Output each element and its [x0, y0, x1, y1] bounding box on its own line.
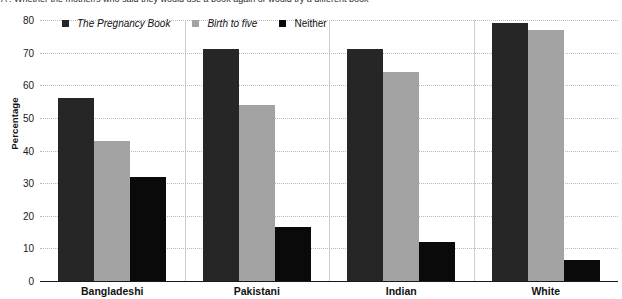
bar-group: [185, 20, 330, 281]
legend-label: The Pregnancy Book: [77, 18, 170, 29]
bar: [130, 177, 166, 281]
legend-swatch-icon: [279, 20, 286, 27]
y-axis-tick-label: 80: [4, 15, 34, 26]
bar: [203, 49, 239, 281]
bar: [58, 98, 94, 281]
bar-group: [474, 20, 619, 281]
chart-title-clipped: A : Whether the mother/s who said they w…: [0, 0, 622, 5]
y-axis-tick-label: 70: [4, 47, 34, 58]
axis-baseline: [40, 281, 618, 282]
bar: [564, 260, 600, 281]
legend-item: The Pregnancy Book: [62, 18, 170, 29]
legend-swatch-icon: [192, 20, 199, 27]
bar: [528, 30, 564, 281]
legend-item: Neither: [279, 18, 326, 29]
legend-item: Birth to five: [192, 18, 257, 29]
x-axis-category-label: White: [531, 285, 560, 297]
y-axis-tick-label: 10: [4, 243, 34, 254]
legend-label: Neither: [294, 18, 326, 29]
bar-group: [40, 20, 185, 281]
y-axis-tick-label: 0: [4, 276, 34, 287]
bar-chart: A : Whether the mother/s who said they w…: [0, 0, 622, 299]
chart-legend: The Pregnancy BookBirth to fiveNeither: [62, 16, 349, 30]
bar: [383, 72, 419, 281]
bar-group: [329, 20, 474, 281]
chart-title-text: A : Whether the mother/s who said they w…: [0, 0, 622, 5]
y-axis-tick-label: 40: [4, 145, 34, 156]
x-axis-category-label: Bangladeshi: [81, 285, 143, 297]
plot-area: 01020304050607080: [40, 20, 618, 281]
x-axis-category-label: Indian: [386, 285, 417, 297]
y-axis-tick-label: 20: [4, 210, 34, 221]
bar: [419, 242, 455, 281]
bar: [94, 141, 130, 281]
x-axis-category-label: Pakistani: [234, 285, 280, 297]
bar: [492, 23, 528, 281]
bar: [275, 227, 311, 281]
bar: [347, 49, 383, 281]
y-axis-tick-label: 30: [4, 178, 34, 189]
legend-swatch-icon: [62, 20, 69, 27]
y-axis-tick-label: 50: [4, 112, 34, 123]
bar: [239, 105, 275, 281]
legend-label: Birth to five: [207, 18, 257, 29]
y-axis-tick-label: 60: [4, 80, 34, 91]
